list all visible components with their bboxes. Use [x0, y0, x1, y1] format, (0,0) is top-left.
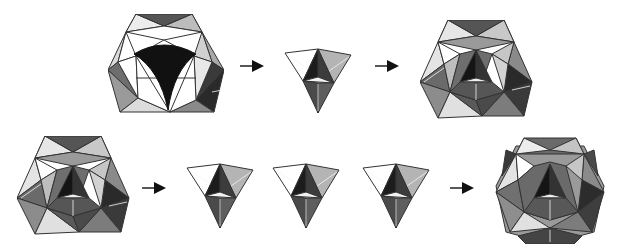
arrow-right-icon [240, 60, 266, 72]
triangular-unit [271, 162, 341, 230]
triangular-unit [283, 47, 353, 115]
arrow-right-icon [142, 182, 168, 194]
complete-polyhedron [494, 136, 606, 244]
filled-frame-repeat [17, 136, 131, 236]
frame-with-concave-hole [108, 14, 224, 114]
arrow-right-icon [450, 182, 476, 194]
arrow-right-icon [375, 60, 401, 72]
triangular-unit [361, 162, 431, 230]
triangular-unit [185, 162, 255, 230]
filled-frame [420, 20, 534, 120]
